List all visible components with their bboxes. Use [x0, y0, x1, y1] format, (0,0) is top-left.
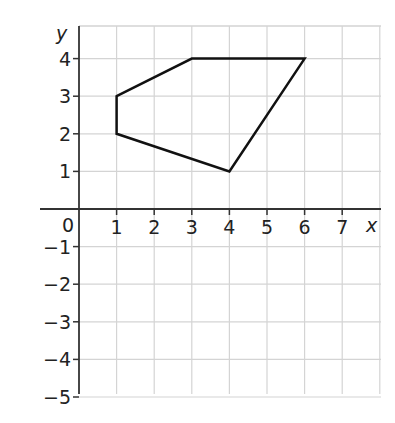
pentagon-shape: [117, 59, 305, 172]
x-axis-label: x: [365, 214, 378, 236]
coordinate-plane: x y 0 12345674321−1−2−3−4−5: [0, 0, 395, 423]
axes: [40, 26, 381, 397]
x-tick-label: 1: [111, 216, 123, 238]
x-tick-label: 2: [148, 216, 160, 238]
y-tick-label: 1: [59, 160, 71, 182]
tick-labels: x y 0 12345674321−1−2−3−4−5: [43, 22, 378, 408]
y-tick-label: −2: [43, 273, 71, 295]
x-tick-label: 5: [261, 216, 273, 238]
y-tick-label: −4: [43, 348, 71, 370]
y-tick-label: 2: [59, 123, 71, 145]
y-tick-label: 4: [59, 48, 71, 70]
y-axis-label: y: [55, 22, 68, 44]
y-tick-label: 3: [59, 85, 71, 107]
x-tick-label: 4: [223, 216, 235, 238]
x-tick-label: 6: [299, 216, 311, 238]
x-tick-label: 7: [336, 216, 348, 238]
y-tick-label: −3: [43, 311, 71, 333]
y-tick-label: −5: [43, 386, 71, 408]
origin-label: 0: [62, 214, 74, 236]
y-tick-label: −1: [43, 236, 71, 258]
x-tick-label: 3: [186, 216, 198, 238]
